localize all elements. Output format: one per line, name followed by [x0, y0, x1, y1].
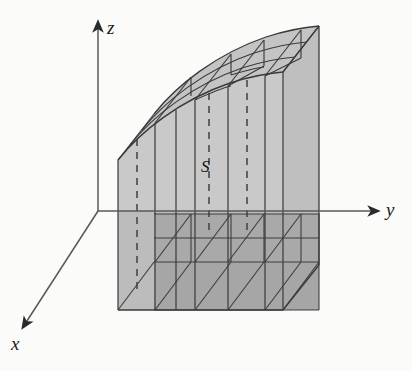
solid-region-diagram	[0, 0, 412, 371]
y-axis-label: y	[386, 200, 394, 219]
figure-canvas: z y x S	[0, 0, 412, 371]
x-axis-label: x	[11, 334, 19, 353]
base-grid-region	[154, 262, 319, 310]
region-label-s: S	[201, 158, 210, 175]
z-axis-label: z	[107, 18, 114, 37]
x-axis	[25, 211, 98, 324]
